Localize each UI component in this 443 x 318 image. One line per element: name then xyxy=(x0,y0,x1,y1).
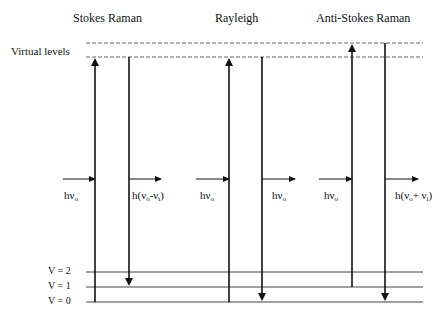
rayleigh-scattered-photon-label: hνo xyxy=(272,189,286,203)
level-label-v0: V = 0 xyxy=(48,295,71,306)
level-label-v1: V = 1 xyxy=(48,280,71,291)
rayleigh-incoming-photon-label: hνo xyxy=(200,189,214,203)
anti-stokes-scattered-photon-label: h(νo+ νi) xyxy=(395,189,432,203)
anti-stokes-incoming-photon-label: hνo xyxy=(324,189,338,203)
title-anti-stokes-raman: Anti-Stokes Raman xyxy=(316,11,410,26)
virtual-levels-label: Virtual levels xyxy=(11,45,70,57)
stokes-incoming-photon-label: hνo xyxy=(64,189,78,203)
level-label-v2: V = 2 xyxy=(48,265,71,276)
title-stokes-raman: Stokes Raman xyxy=(73,11,142,26)
stokes-scattered-photon-label: h(νo-νi) xyxy=(132,189,164,203)
title-rayleigh: Rayleigh xyxy=(215,11,258,26)
